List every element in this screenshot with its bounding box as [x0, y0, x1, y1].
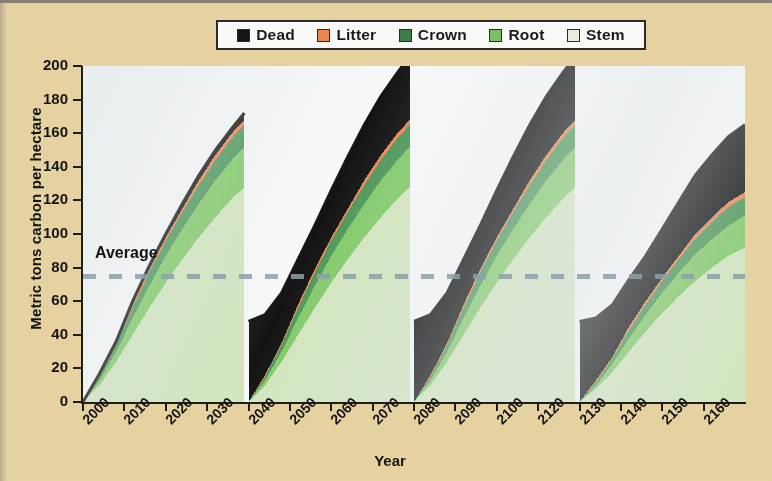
y-tick-160	[73, 132, 82, 134]
y-tick-label-20: 20	[6, 358, 68, 375]
x-tick-2070	[372, 402, 374, 411]
legend-item-root: Root	[489, 26, 544, 44]
legend-label-dead: Dead	[256, 26, 295, 44]
average-label: Average	[95, 244, 158, 262]
y-tick-80	[73, 267, 82, 269]
y-tick-label-180: 180	[6, 90, 68, 107]
chart-figure: Dead Litter Crown Root Stem Metric tons …	[0, 0, 772, 481]
x-tick-2160	[703, 402, 705, 411]
plot-area	[83, 66, 745, 402]
chart-legend: Dead Litter Crown Root Stem	[216, 20, 646, 50]
y-tick-0	[73, 401, 82, 403]
legend-item-stem: Stem	[567, 26, 625, 44]
y-tick-label-100: 100	[6, 224, 68, 241]
y-tick-100	[73, 233, 82, 235]
y-tick-40	[73, 334, 82, 336]
x-tick-2130	[579, 402, 581, 411]
y-tick-140	[73, 166, 82, 168]
legend-swatch-dead	[237, 29, 250, 42]
y-tick-120	[73, 199, 82, 201]
average-reference-line	[83, 274, 745, 279]
legend-swatch-litter	[317, 29, 330, 42]
legend-item-litter: Litter	[317, 26, 376, 44]
y-tick-20	[73, 367, 82, 369]
y-tick-180	[73, 99, 82, 101]
x-tick-2040	[248, 402, 250, 411]
legend-label-litter: Litter	[336, 26, 376, 44]
y-tick-label-40: 40	[6, 325, 68, 342]
legend-swatch-crown	[399, 29, 412, 42]
y-tick-label-120: 120	[6, 190, 68, 207]
y-tick-label-160: 160	[6, 123, 68, 140]
y-tick-label-60: 60	[6, 291, 68, 308]
y-tick-label-200: 200	[6, 56, 68, 73]
legend-item-dead: Dead	[237, 26, 295, 44]
y-axis-line	[81, 66, 83, 404]
y-tick-label-0: 0	[6, 392, 68, 409]
y-tick-label-80: 80	[6, 258, 68, 275]
legend-swatch-stem	[567, 29, 580, 42]
legend-label-root: Root	[508, 26, 544, 44]
y-tick-label-140: 140	[6, 157, 68, 174]
stacked-area-series	[83, 66, 745, 402]
legend-label-crown: Crown	[418, 26, 467, 44]
legend-label-stem: Stem	[586, 26, 625, 44]
y-tick-200	[73, 65, 82, 67]
legend-swatch-root	[489, 29, 502, 42]
y-tick-60	[73, 300, 82, 302]
x-axis-title: Year	[330, 452, 450, 469]
legend-item-crown: Crown	[399, 26, 467, 44]
